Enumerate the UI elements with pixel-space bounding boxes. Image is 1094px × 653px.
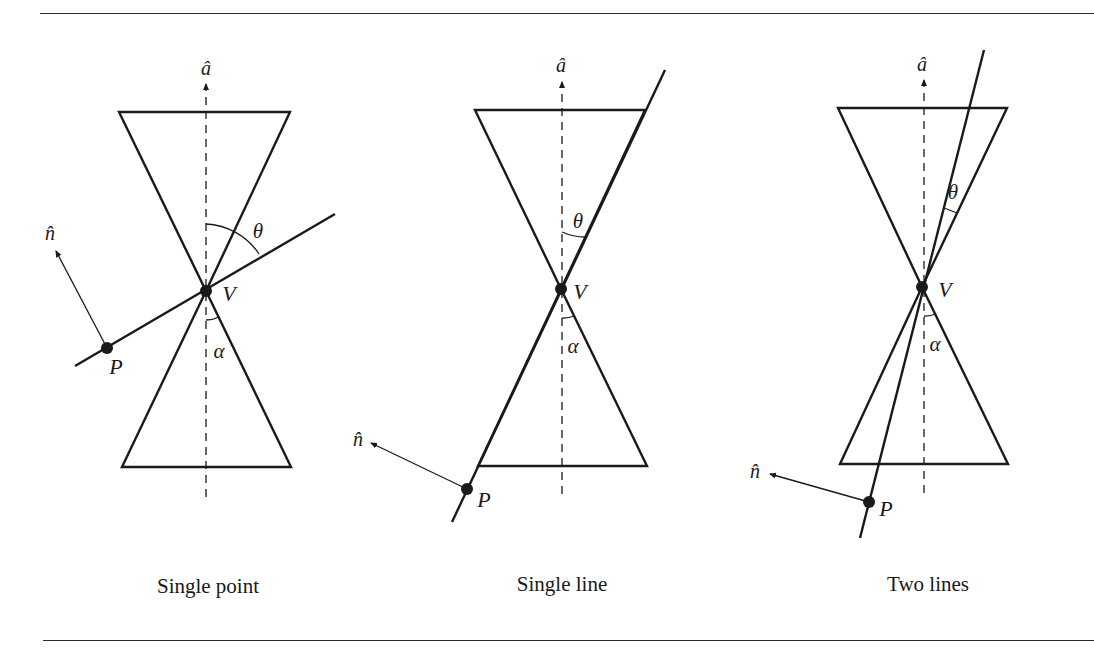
alpha-arc bbox=[562, 316, 574, 318]
theta-arc bbox=[206, 224, 259, 254]
normal-vector bbox=[56, 251, 107, 348]
normal-vector bbox=[770, 474, 869, 502]
vertex-point bbox=[200, 285, 212, 297]
axis-label: â bbox=[556, 54, 566, 76]
vertex-label: V bbox=[222, 281, 238, 306]
p-label: P bbox=[476, 487, 490, 512]
theta-label: θ bbox=[253, 219, 263, 243]
alpha-label: α bbox=[213, 339, 225, 363]
alpha-label: α bbox=[929, 332, 941, 356]
vertex-label: V bbox=[573, 279, 589, 304]
p-point bbox=[101, 342, 113, 354]
theta-label: θ bbox=[573, 209, 583, 233]
theta-label: θ bbox=[948, 180, 958, 204]
panel-single-point: â θ α n̂ V P bbox=[45, 57, 335, 497]
panel-single-line: â θ α n̂ V P bbox=[353, 54, 665, 522]
caption-single-point: Single point bbox=[157, 574, 259, 599]
axis-label: â bbox=[917, 53, 927, 75]
p-label: P bbox=[108, 354, 122, 379]
caption-two-lines: Two lines bbox=[887, 572, 969, 597]
normal-label: n̂ bbox=[45, 222, 55, 244]
caption-single-line: Single line bbox=[517, 572, 607, 597]
p-point bbox=[461, 483, 473, 495]
cone-intersection-figure: â θ α n̂ V P â bbox=[0, 0, 1094, 653]
normal-label: n̂ bbox=[353, 428, 363, 450]
alpha-label: α bbox=[567, 334, 579, 358]
panel-two-lines: â θ α n̂ V P bbox=[750, 50, 1008, 538]
vertex-label: V bbox=[938, 277, 954, 302]
normal-vector bbox=[371, 443, 467, 489]
vertex-point bbox=[555, 283, 567, 295]
alpha-arc bbox=[924, 314, 936, 316]
theta-arc bbox=[944, 208, 957, 213]
normal-label: n̂ bbox=[750, 460, 760, 482]
p-point bbox=[863, 496, 875, 508]
vertex-point bbox=[916, 281, 928, 293]
p-label: P bbox=[878, 496, 892, 521]
axis-label: â bbox=[201, 57, 211, 79]
intersecting-line bbox=[452, 70, 665, 522]
diagram-canvas: â θ α n̂ V P â bbox=[0, 0, 1094, 653]
alpha-arc bbox=[206, 317, 219, 320]
